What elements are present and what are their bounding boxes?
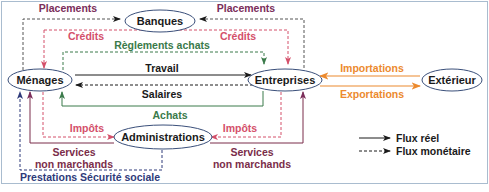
achats-label: Achats bbox=[152, 109, 187, 121]
node-exterieur: Extérieur bbox=[422, 69, 482, 91]
services-left-label-1: Services bbox=[52, 146, 95, 158]
circular-flow-diagram: Banques Ménages Entreprises Extérieur Ad… bbox=[0, 0, 489, 192]
node-banques-label: Banques bbox=[137, 15, 183, 27]
legend-monetary-label: Flux monétaire bbox=[396, 145, 471, 157]
node-administrations: Administrations bbox=[114, 125, 212, 149]
legend-real-label: Flux réel bbox=[396, 132, 439, 144]
legend: Flux réel Flux monétaire bbox=[359, 132, 471, 157]
node-exterieur-label: Extérieur bbox=[428, 74, 476, 86]
placements-left-label: Placements bbox=[39, 2, 98, 14]
travail-label: Travail bbox=[145, 62, 178, 74]
services-right-label-2: non marchands bbox=[213, 158, 291, 170]
credits-left-label: Crédits bbox=[68, 30, 104, 42]
importations-label: Importations bbox=[340, 62, 404, 74]
services-right-label-1: Services bbox=[230, 146, 273, 158]
node-menages-label: Ménages bbox=[16, 74, 63, 86]
impots-right-label: Impôts bbox=[223, 122, 258, 134]
reglements-achats-label: Règlements achats bbox=[114, 39, 210, 51]
node-banques: Banques bbox=[125, 10, 195, 32]
node-entreprises: Entreprises bbox=[248, 69, 322, 91]
credits-right-label: Crédits bbox=[220, 30, 256, 42]
services-left-label-2: non marchands bbox=[35, 158, 113, 170]
node-administrations-label: Administrations bbox=[121, 131, 205, 143]
placements-right-label: Placements bbox=[217, 2, 276, 14]
node-menages: Ménages bbox=[8, 69, 72, 91]
node-entreprises-label: Entreprises bbox=[255, 74, 316, 86]
exportations-label: Exportations bbox=[340, 88, 404, 100]
services-right-arrow bbox=[210, 92, 303, 143]
salaires-label: Salaires bbox=[142, 88, 182, 100]
prestations-label: Prestations Sécurité sociale bbox=[20, 171, 160, 183]
impots-left-label: Impôts bbox=[70, 122, 105, 134]
